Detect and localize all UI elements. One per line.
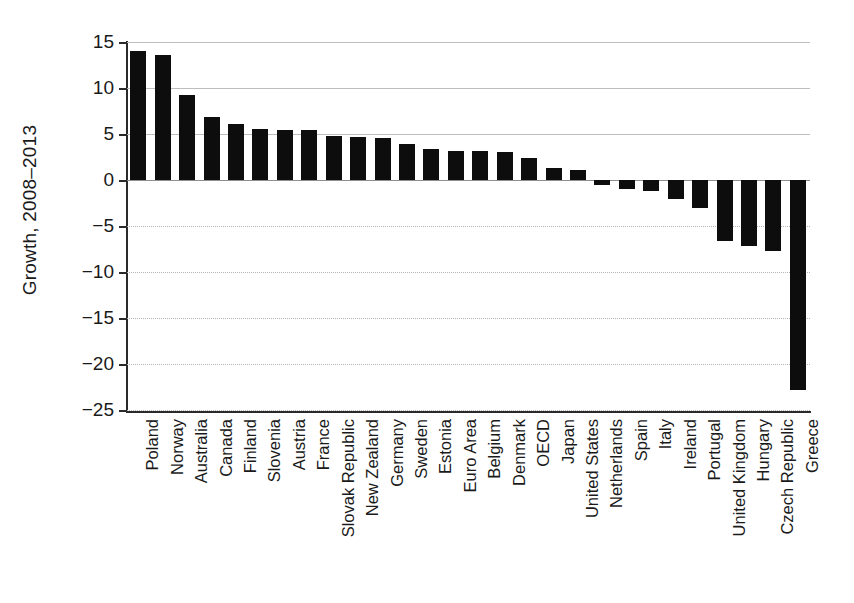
x-axis-category-label: Netherlands: [608, 419, 624, 508]
bar: [130, 51, 146, 180]
y-tick-label: 15: [93, 31, 114, 53]
bar: [765, 180, 781, 251]
y-axis-title: Growth, 2008–2013: [8, 0, 52, 420]
y-tick-mark: [119, 180, 127, 182]
x-axis-category-label: Sweden: [413, 419, 429, 479]
gridline: [126, 410, 810, 411]
gridline: [126, 226, 810, 227]
gridline: [126, 318, 810, 319]
y-tick-mark: [119, 88, 127, 90]
x-axis-category-label: New Zealand: [364, 419, 380, 516]
bar: [497, 152, 513, 180]
y-tick-label: −5: [92, 215, 114, 237]
bar: [252, 129, 268, 180]
x-axis-category-label: Greece: [804, 419, 820, 473]
x-axis-category-label: Estonia: [437, 419, 453, 474]
bar: [326, 136, 342, 180]
bar: [521, 158, 537, 180]
gridline: [126, 364, 810, 365]
y-tick-mark: [119, 42, 127, 44]
bar: [448, 151, 464, 180]
x-axis-category-label: Slovenia: [266, 419, 282, 482]
bar: [204, 117, 220, 180]
x-axis-category-label: Poland: [144, 419, 160, 470]
y-tick-label: 5: [103, 123, 114, 145]
x-axis-category-label: Japan: [560, 419, 576, 464]
bar: [546, 168, 562, 180]
x-axis-category-labels: PolandNorwayAustraliaCanadaFinlandSloven…: [126, 419, 810, 599]
bar: [790, 180, 806, 390]
x-axis-category-label: Euro Area: [462, 419, 478, 492]
bar: [399, 144, 415, 180]
bar: [741, 180, 757, 246]
bar: [643, 180, 659, 191]
bar: [692, 180, 708, 208]
gridline: [126, 42, 810, 43]
y-tick-label: 0: [103, 169, 114, 191]
x-axis-category-label: Belgium: [486, 419, 502, 479]
bar: [350, 137, 366, 180]
bar: [423, 149, 439, 180]
y-tick-mark: [119, 226, 127, 228]
x-axis-category-label: France: [315, 419, 331, 470]
x-axis-category-label: Austria: [291, 419, 307, 470]
y-tick-mark: [119, 272, 127, 274]
x-axis-category-label: OECD: [535, 419, 551, 467]
growth-bar-chart: Growth, 2008–2013 151050−5−10−15−20−25 P…: [0, 0, 854, 603]
y-tick-label: −15: [82, 307, 114, 329]
bar: [570, 170, 586, 180]
x-axis-category-label: Canada: [218, 419, 234, 477]
y-tick-label: 10: [93, 77, 114, 99]
x-axis-category-label: Portugal: [706, 419, 722, 480]
bar: [228, 124, 244, 180]
bar: [472, 151, 488, 180]
x-axis-category-label: Australia: [193, 419, 209, 483]
bar: [155, 55, 171, 180]
bar: [301, 130, 317, 180]
y-tick-label: −25: [82, 399, 114, 421]
x-axis-category-label: Norway: [169, 419, 185, 475]
y-tick-label: −20: [82, 353, 114, 375]
bar: [375, 138, 391, 180]
bar: [717, 180, 733, 241]
x-axis-category-label: United States: [584, 419, 600, 518]
bar: [668, 180, 684, 199]
bar: [179, 95, 195, 180]
plot-area: 151050−5−10−15−20−25: [126, 42, 810, 410]
y-tick-mark: [119, 364, 127, 366]
x-axis-category-label: Czech Republic: [779, 419, 795, 535]
x-axis-category-label: Finland: [242, 419, 258, 473]
y-tick-label: −10: [82, 261, 114, 283]
bar: [619, 180, 635, 189]
y-tick-mark: [119, 318, 127, 320]
x-axis-category-label: Hungary: [755, 419, 771, 481]
x-axis-category-label: United Kingdom: [731, 419, 747, 536]
x-axis-category-label: Germany: [389, 419, 405, 487]
y-tick-mark: [119, 134, 127, 136]
y-axis-title-text: Growth, 2008–2013: [19, 125, 41, 295]
bar: [277, 130, 293, 180]
y-tick-mark: [119, 410, 127, 412]
gridline: [126, 88, 810, 89]
x-axis-category-label: Ireland: [682, 419, 698, 469]
gridline: [126, 272, 810, 273]
bar: [594, 180, 610, 185]
x-axis-category-label: Spain: [633, 419, 649, 461]
x-axis-category-label: Slovak Republic: [340, 419, 356, 537]
x-axis-category-label: Denmark: [511, 419, 527, 486]
x-axis-category-label: Italy: [657, 419, 673, 449]
x-axis-line: [126, 411, 811, 413]
